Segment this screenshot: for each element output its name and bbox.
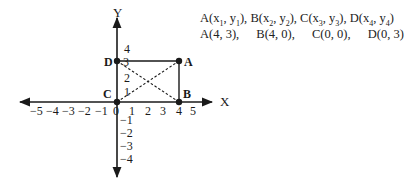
y-axis-label: Y <box>113 5 123 20</box>
point-a <box>176 58 182 64</box>
coord-c: C(0, 0), <box>312 27 351 41</box>
general-point-b: B(x2, y2), <box>250 11 300 25</box>
x-tick: 3 <box>160 104 166 118</box>
label-c: C <box>103 87 112 101</box>
general-point-c: C(x3, y3), <box>300 11 350 25</box>
coord-d: D(0, 3) <box>368 27 404 41</box>
x-tick: −4 <box>46 104 59 118</box>
label-d: D <box>104 55 113 69</box>
label-b: B <box>183 87 191 101</box>
coord-b: B(4, 0), <box>256 27 295 41</box>
y-tick: 2 <box>124 71 130 85</box>
point-d <box>114 58 120 64</box>
label-a: A <box>184 55 193 69</box>
x-tick: −5 <box>30 104 43 118</box>
y-tick: 4 <box>124 42 130 56</box>
general-point-a: A(x1, y1), <box>200 11 250 25</box>
x-axis-label: X <box>220 94 230 109</box>
x-tick: 5 <box>190 104 196 118</box>
y-tick: −2 <box>120 126 133 140</box>
x-tick: −1 <box>95 104 108 118</box>
origin-label: 0 <box>113 104 119 118</box>
coord-a: A(4, 3), <box>200 27 239 41</box>
general-point-d: D(x4, y4) <box>350 11 394 25</box>
y-tick: 1 <box>124 85 130 99</box>
y-tick: −3 <box>120 139 133 153</box>
general-coordinates-line: A(x1, y1), B(x2, y2), C(x3, y3), D(x4, y… <box>200 11 394 28</box>
y-tick: 3 <box>123 55 129 69</box>
x-tick: −3 <box>62 104 75 118</box>
x-tick: −2 <box>78 104 91 118</box>
x-tick: 4 <box>176 104 182 118</box>
specific-coordinates-line: A(4, 3), B(4, 0), C(0, 0), D(0, 3) <box>200 27 408 42</box>
x-tick: 2 <box>145 104 151 118</box>
y-tick: −1 <box>120 113 133 127</box>
y-tick: −4 <box>120 152 133 166</box>
